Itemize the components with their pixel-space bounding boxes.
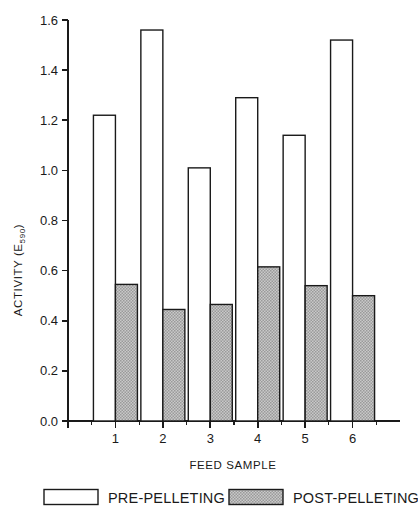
- legend: PRE-PELLETINGPOST-PELLETING: [44, 490, 418, 506]
- bars-group: [93, 30, 374, 421]
- y-axis: 0.00.20.40.60.81.01.21.41.6: [40, 13, 68, 429]
- bar-pre-pelleting: [188, 168, 210, 421]
- x-tick-label: 6: [349, 431, 356, 446]
- bar-pre-pelleting: [331, 40, 353, 421]
- legend-label-post-pelleting: POST-PELLETING: [293, 490, 418, 506]
- bar-post-pelleting: [163, 309, 185, 421]
- bar-post-pelleting: [258, 267, 280, 421]
- bar-chart: 0.00.20.40.60.81.01.21.41.6 123456 FEED …: [0, 0, 418, 516]
- bar-pre-pelleting: [236, 98, 258, 421]
- y-tick-label: 0.8: [40, 213, 58, 228]
- chart-container: 0.00.20.40.60.81.01.21.41.6 123456 FEED …: [0, 0, 418, 516]
- x-axis-title: FEED SAMPLE: [189, 459, 276, 471]
- bar-post-pelleting: [115, 284, 137, 421]
- y-tick-label: 0.0: [40, 414, 58, 429]
- x-tick-label: 4: [254, 431, 261, 446]
- y-tick-label: 1.0: [40, 163, 58, 178]
- x-tick-label: 3: [207, 431, 214, 446]
- bar-post-pelleting: [353, 296, 375, 421]
- y-tick-label: 0.2: [40, 363, 58, 378]
- y-axis-title: ACTIVITY (E590): [12, 224, 27, 316]
- legend-swatch-post-pelleting: [229, 490, 283, 505]
- y-tick-label: 0.4: [40, 313, 58, 328]
- bar-post-pelleting: [305, 286, 327, 421]
- bar-pre-pelleting: [283, 135, 305, 421]
- x-axis: 123456: [68, 421, 400, 446]
- legend-swatch-pre-pelleting: [44, 490, 98, 505]
- y-tick-label: 1.2: [40, 113, 58, 128]
- y-tick-label: 0.6: [40, 263, 58, 278]
- bar-pre-pelleting: [93, 115, 115, 421]
- x-tick-label: 1: [112, 431, 119, 446]
- x-tick-label: 2: [159, 431, 166, 446]
- y-tick-label: 1.4: [40, 63, 58, 78]
- y-tick-label: 1.6: [40, 13, 58, 28]
- legend-label-pre-pelleting: PRE-PELLETING: [108, 490, 225, 506]
- bar-pre-pelleting: [141, 30, 163, 421]
- bar-post-pelleting: [210, 304, 232, 421]
- x-tick-label: 5: [302, 431, 309, 446]
